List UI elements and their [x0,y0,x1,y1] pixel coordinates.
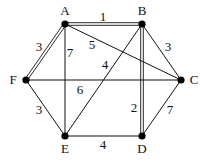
edge-weight-label: 5 [89,37,96,52]
node-D [138,132,145,139]
node-label: D [137,141,146,156]
edge-C-D [142,80,181,136]
edge-B-C [142,24,181,80]
node-label: F [9,72,16,87]
edge-weight-label: 4 [100,137,107,152]
edge-weight-label: 3 [165,39,172,54]
edge-weight-label: 4 [102,57,109,72]
edge-weight-label: 7 [167,102,174,117]
node-label: B [138,3,147,18]
node-E [61,132,68,139]
edge-weight-label: 3 [36,39,43,54]
edge-A-F [25,23,66,80]
node-label: E [61,141,69,156]
edge-weight-label: 2 [131,100,138,115]
weighted-graph: 13753426347ABCDEF [0,0,205,162]
node-B [138,20,145,27]
edge-F-E [26,80,65,136]
edge-weight-label: 3 [36,102,43,117]
node-label: C [190,72,199,87]
edge-weight-label: 7 [67,45,74,60]
node-label: A [60,3,70,18]
node-C [177,76,184,83]
edge-weight-label: 1 [100,9,107,24]
node-A [61,20,68,27]
edge-weight-label: 6 [77,82,84,97]
node-F [22,76,29,83]
